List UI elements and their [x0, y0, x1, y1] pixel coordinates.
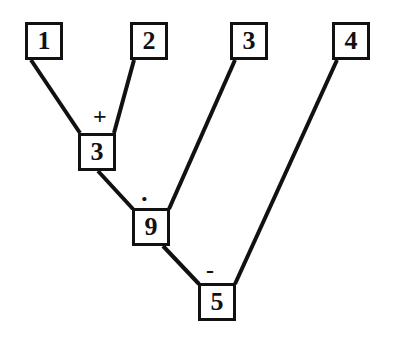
edge-product-to-difference [163, 246, 199, 284]
leaf-node-3-label: 3 [243, 28, 256, 54]
internal-node-difference: 5 [198, 283, 236, 321]
leaf-node-2: 2 [130, 22, 168, 60]
edge-leaf3-to-product [169, 60, 235, 209]
expression-tree-diagram: 1 2 3 4 + 3 · 9 - 5 [0, 0, 395, 342]
leaf-node-4: 4 [332, 22, 370, 60]
leaf-node-1-label: 1 [38, 28, 51, 54]
multiply-operator-symbol: · [140, 184, 149, 213]
leaf-node-4-label: 4 [345, 28, 358, 54]
leaf-node-1: 1 [25, 22, 63, 60]
internal-node-sum: 3 [78, 133, 116, 171]
internal-node-sum-label: 3 [91, 139, 104, 165]
plus-operator-symbol: + [93, 103, 107, 129]
edge-sum-to-product [98, 171, 133, 209]
leaf-node-3: 3 [230, 22, 268, 60]
minus-operator-label: - [206, 258, 214, 282]
internal-node-difference-label: 5 [211, 289, 224, 315]
edge-leaf4-to-difference [235, 60, 337, 284]
minus-operator-symbol: - [206, 257, 214, 283]
multiply-operator-label: · [140, 186, 149, 212]
internal-node-product-label: 9 [145, 214, 158, 240]
edge-leaf1-to-sum [31, 60, 80, 133]
edge-group [31, 60, 337, 284]
edge-leaf2-to-sum [114, 60, 134, 133]
leaf-node-2-label: 2 [143, 28, 156, 54]
plus-operator-label: + [93, 104, 107, 128]
internal-node-product: 9 [132, 208, 170, 246]
